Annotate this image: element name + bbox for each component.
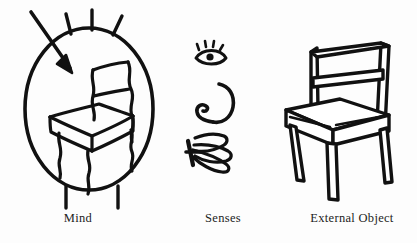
ear-icon [197,84,233,122]
diagram-canvas [0,0,417,243]
mind-panel [25,10,153,208]
chair-icon [286,43,392,200]
panel-label-external-object: External Object [310,211,393,226]
sketch-chair-icon [50,62,133,194]
senses-panel [186,41,233,172]
diagram-figure: Mind Senses External Object [0,0,417,243]
panel-label-senses: Senses [205,211,241,226]
panel-label-mind: Mind [64,211,92,226]
eye-icon [196,41,226,64]
hand-icon [186,134,231,172]
